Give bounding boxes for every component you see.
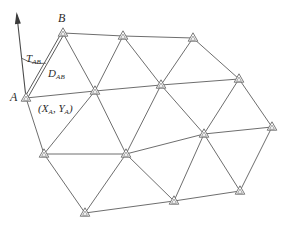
network-edge-n6-n7 — [161, 79, 239, 85]
network-edge-n10-n13 — [174, 134, 204, 201]
network-edge-n10-n11 — [204, 127, 272, 134]
network-edge-B-n2 — [63, 33, 123, 36]
stations-group — [21, 28, 277, 216]
network-edge-n3-n6 — [161, 38, 193, 85]
network-edge-n5-n9 — [95, 91, 126, 154]
station-marker-station-bottom-3 — [235, 186, 245, 194]
label-point-a: A — [10, 91, 17, 103]
label-coordinates-a: (XA, YA) — [38, 103, 73, 116]
network-edge-A-n5 — [26, 91, 95, 98]
network-edge-n6-n10 — [161, 85, 204, 134]
network-edge-n9-n13 — [126, 154, 174, 201]
network-edge-B-n5 — [63, 33, 95, 91]
station-marker-station-top-3 — [188, 33, 198, 41]
network-edge-n5-n6 — [95, 85, 161, 91]
network-edge-n13-n14 — [174, 191, 240, 201]
network-edge-n2-n5 — [95, 36, 123, 91]
network-edge-n9-n12 — [85, 154, 126, 213]
station-marker-station-mid-2 — [90, 86, 100, 94]
north-arrow-head — [15, 12, 21, 24]
network-edge-n8-n12 — [44, 154, 85, 213]
station-marker-station-top-2 — [118, 31, 128, 39]
label-distance-dab: DAB — [48, 68, 65, 81]
station-marker-station-low-4 — [267, 122, 277, 130]
network-edge-n3-n7 — [193, 38, 239, 79]
triangulation-diagram: A B TAB DAB (XA, YA) — [0, 0, 286, 228]
station-marker-station-b — [58, 28, 68, 36]
label-point-b: B — [58, 12, 65, 24]
station-marker-station-mid-4 — [234, 74, 244, 82]
network-edge-n5-n8 — [44, 91, 95, 154]
network-edge-n6-n9 — [126, 85, 161, 154]
network-edge-n7-n10 — [204, 79, 239, 134]
network-edge-n10-n14 — [204, 134, 240, 191]
network-edge-n7-n11 — [239, 79, 272, 127]
network-edge-n12-n13 — [85, 201, 174, 213]
station-marker-station-bottom-1 — [80, 208, 90, 216]
label-azimuth-tab: TAB — [26, 53, 41, 66]
distance-line-1 — [27, 34, 64, 99]
network-edge-n11-n14 — [240, 127, 272, 191]
edges-group — [26, 33, 272, 213]
network-edge-n9-n10 — [126, 134, 204, 154]
network-edge-n2-n6 — [123, 36, 161, 85]
network-edge-n2-n3 — [123, 36, 193, 38]
north-arrow-shaft — [17, 15, 26, 98]
